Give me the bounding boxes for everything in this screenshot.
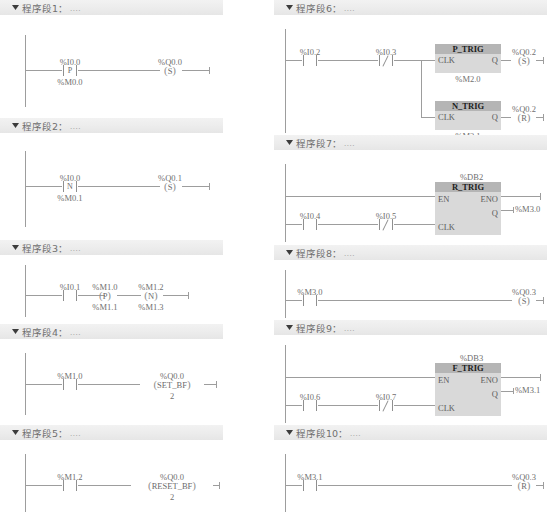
network-6-title: 程序段6 [296,1,332,15]
n-contact[interactable]: N [62,181,78,192]
n-trig-q-pin: Q [492,112,498,122]
p-coil[interactable]: (P) [93,289,117,301]
q-out-wire [501,391,513,392]
nc-slash-icon [383,219,389,230]
rung-wire-3 [182,186,209,187]
nc-contact[interactable] [378,219,394,230]
clk-wire-2 [318,405,378,406]
network-2-header[interactable]: 程序段2 ： .... [0,118,223,133]
collapse-triangle-icon[interactable] [283,250,296,255]
r-trig-en-pin: EN [438,194,449,204]
network-5: 程序段5 ： .... %M1.2 %Q0.0 (RESET_BF) 2 [0,425,273,514]
network-4-header[interactable]: 程序段4 ： .... [0,324,223,339]
no-contact[interactable] [302,480,318,491]
coil-1-end-wire [536,60,543,61]
nc-contact[interactable] [378,55,394,66]
contact-label-bottom: %M0.1 [50,193,90,203]
network-title-separator: ： [58,1,68,15]
network-5-title: 程序段5 [22,426,58,440]
p-contact[interactable]: P [62,65,78,76]
collapse-triangle-icon[interactable] [9,329,22,334]
coil-label-bottom: %M1.1 [85,302,125,312]
collapse-triangle-icon[interactable] [283,140,296,145]
rung-wire [25,384,62,385]
collapse-triangle-icon[interactable] [283,430,296,435]
rung-wire-2 [318,60,378,61]
coil-2-end-wire [536,117,543,118]
reset-bf-coil[interactable]: (RESET_BF) [131,479,213,491]
no-contact[interactable] [62,290,78,301]
r-trig-block[interactable]: R_TRIG EN ENO Q CLK [435,182,501,235]
no-contact[interactable] [302,55,318,66]
collapse-triangle-icon[interactable] [9,245,22,250]
set-bf-coil[interactable]: (SET_BF) [140,378,204,390]
coil-symbol: RESET_BF [152,481,193,491]
network-2: 程序段2 ： .... %I0.0 N %M0.1 %Q0.1 (S) [0,118,273,240]
network-9-title: 程序段9 [296,321,332,335]
nc-slash-icon [383,55,389,66]
network-7-header[interactable]: 程序段7 ： .... [274,135,547,150]
n-trig-block-title: N_TRIG [435,101,501,111]
collapse-triangle-icon[interactable] [283,5,296,10]
n-coil[interactable]: (N) [139,289,163,301]
network-7-title: 程序段7 [296,136,332,150]
network-5-rung: %M1.2 %Q0.0 (RESET_BF) 2 [0,440,273,514]
network-10-header[interactable]: 程序段10 ： .... [274,425,547,440]
nc-contact[interactable] [378,400,394,411]
network-7-comment: .... [344,138,355,148]
f-trig-clk-pin: CLK [438,403,455,413]
rung-end-tick [216,381,217,388]
p-trig-block[interactable]: P_TRIG CLK Q [435,44,501,73]
eno-wire [501,196,540,197]
network-9-rung: %DB3 F_TRIG EN ENO Q CLK %M3.1 %I0.6 %I0… [274,335,547,425]
set-coil[interactable]: (S) [512,294,536,306]
network-8-header[interactable]: 程序段8 ： .... [274,245,547,260]
collapse-triangle-icon[interactable] [9,5,22,10]
r-trig-clk-pin: CLK [438,222,455,232]
set-coil[interactable]: (S) [512,54,536,66]
network-8-title: 程序段8 [296,246,332,260]
rung-wire-3 [536,485,543,486]
power-rail [25,151,26,227]
set-coil[interactable]: (S) [158,180,182,192]
collapse-triangle-icon[interactable] [9,430,22,435]
f-trig-q-target-label: %M3.1 [515,385,540,395]
n-trig-block[interactable]: N_TRIG CLK Q [435,101,501,130]
network-5-header[interactable]: 程序段5 ： .... [0,425,223,440]
no-contact[interactable] [302,219,318,230]
reset-coil[interactable]: (R) [512,479,536,491]
power-rail [25,265,26,317]
network-9: 程序段9 ： .... %DB3 F_TRIG EN ENO Q CLK %M3… [274,320,547,425]
en-wire [285,377,435,378]
network-6-header[interactable]: 程序段6 ： .... [274,0,547,15]
network-3-rung: %I0.1 %M1.0 (P) %M1.1 %M1.2 (N) %M1.3 [0,255,273,324]
f-trig-block[interactable]: F_TRIG EN ENO Q CLK [435,363,501,416]
coil-2-label-bottom: %M1.3 [131,302,171,312]
collapse-triangle-icon[interactable] [283,325,296,330]
power-rail [285,164,286,242]
collapse-triangle-icon[interactable] [9,123,22,128]
network-title-separator: ： [332,321,342,335]
network-3-header[interactable]: 程序段3 ： .... [0,240,223,255]
network-7: 程序段7 ： .... %DB2 R_TRIG EN ENO Q CLK %M3… [274,135,547,245]
contact-label-bottom: %M0.0 [50,77,90,87]
q-out-tick [513,207,514,213]
contact-symbol: N [62,181,78,192]
no-contact[interactable] [62,480,78,491]
network-3-title: 程序段3 [22,241,58,255]
rung-wire-4 [163,295,188,296]
network-8-comment: .... [344,248,355,258]
p-trig-clk-pin: CLK [438,55,455,65]
network-1-rung: %I0.0 P %M0.0 %Q0.0 (S) [0,15,273,118]
network-5-comment: .... [70,428,81,438]
rung-wire [285,60,302,61]
network-9-header[interactable]: 程序段9 ： .... [274,320,547,335]
reset-coil[interactable]: (R) [512,111,536,123]
no-contact[interactable] [302,295,318,306]
f-trig-eno-pin: ENO [481,375,498,385]
rung-wire-3 [394,60,421,61]
no-contact[interactable] [302,400,318,411]
no-contact[interactable] [62,379,78,390]
set-coil[interactable]: (S) [158,64,182,76]
network-1-header[interactable]: 程序段1 ： .... [0,0,223,15]
